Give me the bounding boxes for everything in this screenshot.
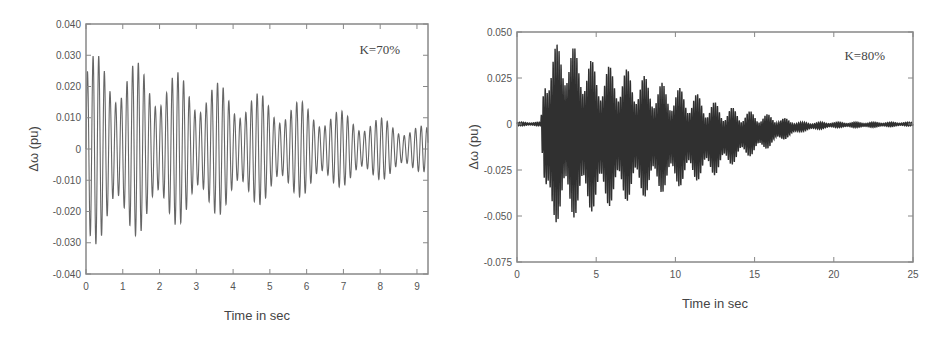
x-tick-label: 5 [593,269,599,280]
y-tick-label: 0.050 [487,27,512,38]
gain-annotation: K=80% [844,48,885,63]
y-tick-label: 0.025 [487,73,512,84]
y-axis-label: Δω (pu) [466,124,481,170]
x-tick-label: 0 [514,269,520,280]
y-tick-label: -0.075 [484,257,513,268]
x-axis-label: Time in sec [682,296,748,311]
x-tick-label: 10 [670,269,682,280]
x-tick-label: 25 [907,269,919,280]
figure: 01234567890.0400.0300.0200.0100-0.010-0.… [0,0,944,352]
signal-trace [517,45,913,223]
x-tick-label: 15 [749,269,761,280]
y-tick-label: -0.050 [484,211,513,222]
y-tick-label: 0 [506,119,512,130]
x-tick-label: 20 [828,269,840,280]
y-tick-label: -0.025 [484,165,513,176]
chart-right-k80: 05101520250.0500.0250-0.025-0.050-0.075T… [0,0,944,352]
